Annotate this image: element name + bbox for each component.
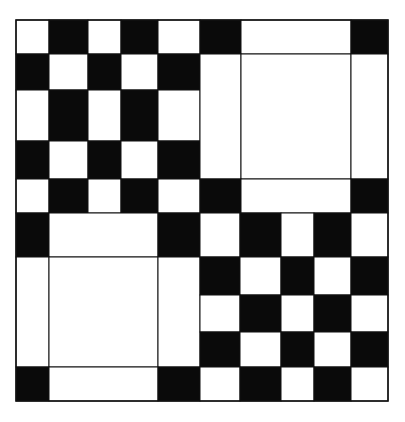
light-square xyxy=(121,54,158,90)
light-square xyxy=(240,257,281,295)
frame-bottom-left xyxy=(16,213,200,401)
side-bar xyxy=(351,54,388,179)
light-square xyxy=(88,90,121,141)
corner-square xyxy=(158,213,200,257)
dark-square xyxy=(88,141,121,179)
center-square xyxy=(49,257,158,367)
dark-square xyxy=(351,332,388,367)
light-square xyxy=(16,179,49,213)
light-square xyxy=(200,295,240,332)
quilt-diagram xyxy=(0,0,405,422)
dark-square xyxy=(351,257,388,295)
dark-square xyxy=(314,213,351,257)
light-square xyxy=(88,20,121,54)
dark-square xyxy=(16,54,49,90)
light-square xyxy=(314,257,351,295)
center-square xyxy=(241,54,351,179)
dark-square xyxy=(49,90,88,141)
dark-square xyxy=(121,90,158,141)
dark-square xyxy=(200,257,240,295)
dark-square xyxy=(121,179,158,213)
dark-square xyxy=(88,54,121,90)
dark-square xyxy=(240,367,281,401)
light-square xyxy=(200,367,240,401)
dark-square xyxy=(121,20,158,54)
dark-square xyxy=(200,332,240,367)
light-square xyxy=(49,141,88,179)
dark-square xyxy=(49,179,88,213)
side-bar xyxy=(49,367,158,401)
corner-square xyxy=(351,179,388,213)
light-square xyxy=(49,54,88,90)
dark-square xyxy=(314,367,351,401)
corner-square xyxy=(200,20,241,54)
frame-top-right xyxy=(200,20,388,213)
light-square xyxy=(16,90,49,141)
dark-square xyxy=(49,20,88,54)
corner-square xyxy=(351,20,388,54)
side-bar xyxy=(241,20,351,54)
light-square xyxy=(16,20,49,54)
dark-square xyxy=(281,257,314,295)
light-square xyxy=(281,213,314,257)
corner-square xyxy=(158,367,200,401)
light-square xyxy=(281,367,314,401)
dark-square xyxy=(158,141,200,179)
quilt-blocks xyxy=(16,20,388,401)
checkerboard-top-left xyxy=(16,20,200,213)
light-square xyxy=(351,367,388,401)
dark-square xyxy=(240,213,281,257)
light-square xyxy=(200,213,240,257)
light-square xyxy=(240,332,281,367)
side-bar xyxy=(200,54,241,179)
side-bar xyxy=(158,257,200,367)
dark-square xyxy=(158,54,200,90)
side-bar xyxy=(241,179,351,213)
corner-square xyxy=(16,213,49,257)
light-square xyxy=(351,213,388,257)
corner-square xyxy=(16,367,49,401)
dark-square xyxy=(240,295,281,332)
checkerboard-bottom-right xyxy=(200,213,388,401)
dark-square xyxy=(16,141,49,179)
light-square xyxy=(121,141,158,179)
dark-square xyxy=(314,295,351,332)
side-bar xyxy=(16,257,49,367)
light-square xyxy=(281,295,314,332)
light-square xyxy=(158,179,200,213)
dark-square xyxy=(281,332,314,367)
light-square xyxy=(351,295,388,332)
side-bar xyxy=(49,213,158,257)
light-square xyxy=(314,332,351,367)
light-square xyxy=(88,179,121,213)
corner-square xyxy=(200,179,241,213)
light-square xyxy=(158,90,200,141)
light-square xyxy=(158,20,200,54)
